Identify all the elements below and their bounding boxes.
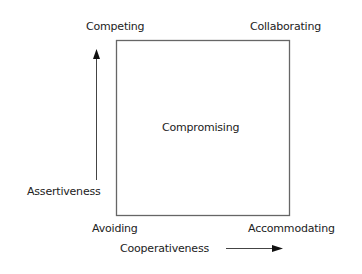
label-collaborating: Collaborating xyxy=(250,20,321,33)
assertiveness-arrow xyxy=(93,49,100,180)
label-assertiveness: Assertiveness xyxy=(27,185,101,198)
label-compromising: Compromising xyxy=(162,121,239,134)
conflict-modes-diagram: Competing Collaborating Compromising Ass… xyxy=(0,0,362,274)
cooperativeness-arrow xyxy=(226,245,283,252)
label-competing: Competing xyxy=(86,20,144,33)
label-accommodating: Accommodating xyxy=(248,222,335,235)
label-avoiding: Avoiding xyxy=(92,222,138,235)
label-cooperativeness: Cooperativeness xyxy=(120,242,209,255)
